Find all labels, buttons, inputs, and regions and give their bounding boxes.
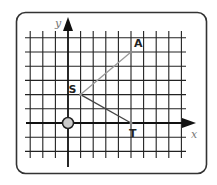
coordinate-grid-diagram: xySAT xyxy=(0,0,217,185)
origin-marker xyxy=(63,118,74,129)
point-a xyxy=(129,50,132,53)
point-label-a: A xyxy=(134,37,143,50)
diagram-frame xyxy=(17,13,207,174)
y-axis-label: y xyxy=(54,17,62,30)
point-label-s: S xyxy=(69,83,77,96)
point-s xyxy=(79,93,82,96)
x-axis-label: x xyxy=(191,128,198,141)
point-t xyxy=(129,121,132,124)
point-label-t: T xyxy=(129,127,137,140)
